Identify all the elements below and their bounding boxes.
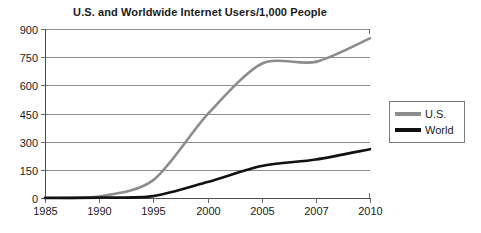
legend-item-label: World	[425, 124, 454, 136]
legend-item[interactable]: U.S.	[390, 106, 464, 122]
legend-color-swatch	[395, 112, 421, 116]
y-axis-tick-label: 0	[32, 193, 38, 205]
y-axis-tick-label: 750	[20, 52, 38, 64]
legend-item[interactable]: World	[390, 122, 464, 138]
series-line-world	[45, 149, 370, 198]
legend-item-label: U.S.	[425, 108, 446, 120]
x-axis-tick-label: 1995	[141, 205, 165, 217]
x-axis-tick-label: 1990	[87, 205, 111, 217]
chart-container: U.S. and Worldwide Internet Users/1,000 …	[0, 0, 481, 233]
legend-color-swatch	[395, 128, 421, 132]
x-axis-tick-label: 2007	[304, 205, 328, 217]
chart-legend: U.S.World	[389, 101, 465, 143]
y-axis-tick-label: 900	[20, 24, 38, 36]
y-axis-tick-label: 600	[20, 80, 38, 92]
x-axis-tick-label: 2000	[196, 205, 220, 217]
y-axis-tick-label: 450	[20, 109, 38, 121]
x-axis-tick-label: 2005	[250, 205, 274, 217]
x-axis-tick-label: 2010	[358, 205, 382, 217]
x-axis-tick-label: 1985	[33, 205, 57, 217]
y-axis-tick-label: 300	[20, 137, 38, 149]
series-line-u-s	[45, 38, 370, 198]
y-axis-tick-label: 150	[20, 165, 38, 177]
